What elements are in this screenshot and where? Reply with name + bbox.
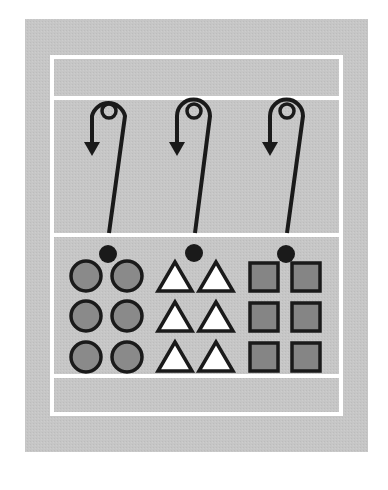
drill-diagram — [0, 0, 388, 490]
square-player-icon — [292, 263, 320, 291]
circle-player-icon — [71, 301, 101, 331]
circle-player-icon — [71, 342, 101, 372]
diagram-canvas — [0, 0, 388, 490]
square-player-icon — [250, 263, 278, 291]
square-player-icon — [292, 343, 320, 371]
square-player-icon — [250, 303, 278, 331]
circle-player-icon — [112, 342, 142, 372]
circle-player-icon — [71, 261, 101, 291]
circle-player-icon — [112, 261, 142, 291]
player-3-marker-icon — [277, 245, 295, 263]
player-1-marker-icon — [99, 245, 117, 263]
square-player-icon — [292, 303, 320, 331]
player-2-marker-icon — [185, 244, 203, 262]
square-player-icon — [250, 343, 278, 371]
circle-player-icon — [112, 301, 142, 331]
